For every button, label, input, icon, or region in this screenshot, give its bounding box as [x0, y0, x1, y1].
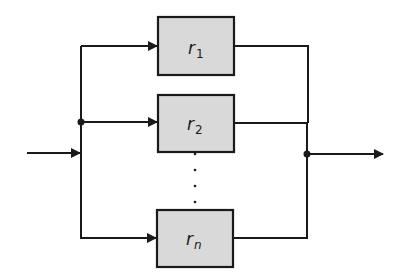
block-r2-subscript: 2 — [195, 123, 203, 137]
block-r1-symbol: r — [188, 38, 196, 58]
block-rn-symbol: r — [186, 229, 194, 249]
vertical-ellipsis — [194, 153, 197, 204]
block-r2-symbol: r — [187, 114, 195, 134]
block-rn: rn — [157, 210, 233, 267]
block-r1-subscript: 1 — [196, 47, 204, 61]
block-r1: r1 — [158, 17, 234, 75]
block-r2: r2 — [158, 95, 234, 152]
parallel-system-diagram: r1 r2 rn — [0, 0, 406, 279]
block-rn-subscript: n — [194, 238, 202, 252]
